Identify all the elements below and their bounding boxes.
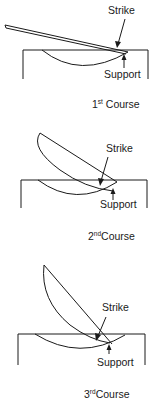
lower-shell-arc <box>42 50 128 66</box>
panel-course-3: Strike Support 3rdCourse <box>0 260 153 404</box>
course-word: Course <box>101 230 135 242</box>
course-3-drawing <box>0 260 153 404</box>
lower-shell-arc <box>35 334 125 348</box>
strike-label: Strike <box>102 301 129 313</box>
support-label: Support <box>100 198 137 210</box>
strike-arrowhead <box>98 178 104 186</box>
strike-arrow-line <box>101 157 108 181</box>
course-label: 2ndCourse <box>88 230 135 242</box>
plank-top-edge <box>5 25 128 52</box>
upper-shell-edge <box>40 133 117 182</box>
course-label: 3rdCourse <box>84 388 129 400</box>
support-arrowhead <box>107 344 112 350</box>
strike-arrow-line <box>118 19 125 44</box>
course-word: Course <box>96 388 130 400</box>
course-suffix: nd <box>94 230 101 237</box>
course-suffix: st <box>98 98 103 105</box>
course-1-drawing <box>0 0 153 130</box>
strike-label: Strike <box>108 4 135 16</box>
support-label: Support <box>104 68 141 80</box>
strike-label: Strike <box>106 142 133 154</box>
lower-shell-arc <box>38 180 117 195</box>
panel-course-2: Strike Support 2ndCourse <box>0 130 153 260</box>
course-label: 1st Course <box>92 98 140 110</box>
course-word: Course <box>106 98 140 110</box>
panel-course-1: Strike Support 1st Course <box>0 0 153 130</box>
strike-arrow-line <box>98 317 106 336</box>
support-label: Support <box>97 356 134 368</box>
strike-arrowhead <box>115 41 121 48</box>
